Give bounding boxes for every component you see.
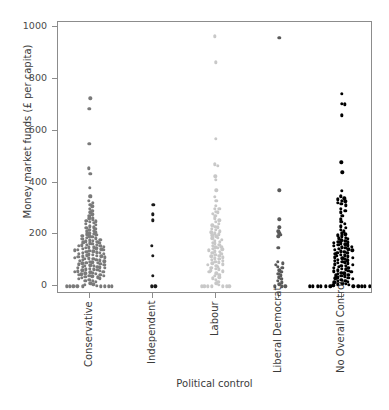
data-point [276, 260, 279, 263]
data-point [73, 256, 76, 259]
data-point [88, 186, 91, 189]
data-point [154, 285, 157, 288]
data-point [214, 178, 217, 181]
data-point [344, 209, 347, 212]
data-point [150, 244, 153, 247]
data-point [208, 270, 211, 273]
data-point [340, 202, 343, 205]
data-point [311, 285, 314, 288]
data-point [341, 171, 344, 174]
data-point [340, 114, 343, 117]
data-point [216, 246, 219, 249]
data-point [90, 275, 93, 278]
data-point [218, 218, 221, 221]
data-point [87, 167, 90, 170]
data-point [210, 285, 213, 288]
data-point [88, 142, 91, 145]
data-point [277, 246, 280, 249]
data-point [332, 270, 335, 273]
data-point [87, 245, 90, 248]
data-point [76, 248, 79, 251]
data-points-layer [58, 22, 371, 292]
data-point [280, 281, 283, 284]
data-point [88, 267, 91, 270]
data-point [103, 256, 106, 259]
data-point [95, 247, 98, 250]
data-point [218, 275, 221, 278]
data-point [68, 285, 71, 288]
data-point [98, 277, 101, 280]
data-point [284, 285, 287, 288]
data-point [91, 253, 94, 256]
data-point [363, 285, 366, 288]
data-point [110, 285, 113, 288]
data-point [347, 283, 350, 286]
data-point [83, 275, 86, 278]
data-point [328, 285, 331, 288]
data-point [216, 211, 219, 214]
y-axis-tick-label: 1000 [11, 21, 47, 31]
plot-area [57, 21, 372, 293]
data-point [324, 285, 327, 288]
data-point [228, 285, 231, 288]
data-point [351, 256, 354, 259]
data-point [221, 263, 224, 266]
data-point [351, 263, 354, 266]
data-point [84, 246, 87, 249]
y-axis-tick-label: 200 [11, 229, 47, 239]
x-axis-title: Political control [57, 378, 372, 389]
data-point [350, 270, 353, 273]
data-point [277, 235, 280, 238]
data-point [80, 276, 83, 279]
data-point [72, 285, 75, 288]
data-point [351, 249, 354, 252]
data-point [89, 172, 92, 175]
data-point [102, 248, 105, 251]
data-point [340, 161, 343, 164]
data-point [95, 254, 98, 257]
data-point [89, 195, 92, 198]
y-axis-tick-label: 400 [11, 177, 47, 187]
x-axis-tick-label-independent: Independent [146, 301, 157, 373]
data-point [221, 270, 224, 273]
data-point [99, 285, 102, 288]
data-point [278, 225, 281, 228]
data-point [84, 222, 87, 225]
x-axis-tick-labels: ConservativeIndependentLabourLiberal Dem… [57, 301, 372, 377]
x-axis-tick-label-liberal-democrat: Liberal Democrat [272, 301, 283, 373]
data-point [203, 285, 206, 288]
x-axis-tick-label-no-overall-control: No Overall Control [335, 301, 346, 373]
data-point [88, 220, 91, 223]
data-point [279, 233, 282, 236]
data-point [277, 218, 280, 221]
x-axis-tick-label-conservative: Conservative [83, 301, 94, 373]
data-point [73, 270, 76, 273]
x-axis-ticks [57, 293, 372, 299]
data-point [87, 107, 90, 110]
data-point [214, 137, 217, 140]
data-point [84, 279, 87, 282]
data-point [151, 254, 154, 257]
data-point [214, 174, 217, 177]
data-point [151, 203, 154, 206]
data-point [217, 283, 220, 286]
data-point [351, 277, 354, 280]
data-point [81, 285, 84, 288]
data-point [217, 261, 220, 264]
data-point [333, 263, 336, 266]
data-point [344, 204, 347, 207]
x-axis-tick [215, 293, 216, 298]
y-axis-tick-labels: 02004006008001000 [9, 21, 47, 293]
chart-root: Money market funds (£ per capita) 020040… [0, 0, 389, 410]
data-point [278, 189, 281, 192]
data-point [340, 267, 343, 270]
data-point [221, 285, 224, 288]
data-point [340, 189, 343, 192]
data-point [221, 248, 224, 251]
data-point [213, 195, 216, 198]
data-point [280, 266, 283, 269]
data-point [88, 97, 91, 100]
data-point [215, 199, 218, 202]
y-axis-tick-label: 800 [11, 73, 47, 83]
data-point [151, 218, 154, 221]
